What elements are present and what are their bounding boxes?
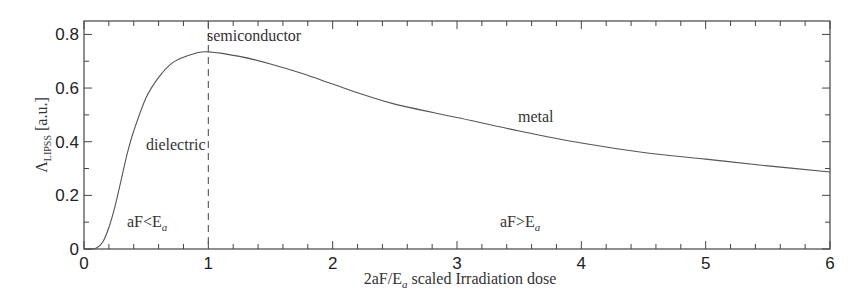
annotation-label: metal xyxy=(518,108,554,125)
annotation-label: aF<Ea xyxy=(127,213,168,233)
y-tick-label: 0.8 xyxy=(55,25,79,44)
plot-border xyxy=(84,21,830,249)
x-tick-label: 2 xyxy=(328,254,337,273)
annotations: semiconductordielectricmetalaF<EaaF>Ea xyxy=(127,27,554,233)
y-tick-label: 0 xyxy=(70,240,79,259)
axis-ticks xyxy=(84,21,830,249)
annotation-label: aF>Ea xyxy=(500,213,541,233)
plot-frame xyxy=(84,21,830,249)
y-axis-title: ΛLIPSS [a.u.] xyxy=(33,97,53,173)
x-tick-label: 0 xyxy=(79,254,88,273)
y-tick-label: 0.6 xyxy=(55,79,79,98)
y-tick-label: 0.4 xyxy=(55,133,79,152)
annotation-label: dielectric xyxy=(146,136,206,153)
x-tick-label: 6 xyxy=(825,254,834,273)
chart: 012345600.20.40.60.8 semiconductordielec… xyxy=(0,0,867,298)
x-axis-title: 2aF/Ea scaled Irradiation dose xyxy=(364,270,557,290)
annotation-label: semiconductor xyxy=(207,27,302,44)
x-tick-label: 4 xyxy=(577,254,586,273)
x-tick-label: 5 xyxy=(701,254,710,273)
x-tick-label: 1 xyxy=(204,254,213,273)
y-tick-label: 0.2 xyxy=(55,186,79,205)
